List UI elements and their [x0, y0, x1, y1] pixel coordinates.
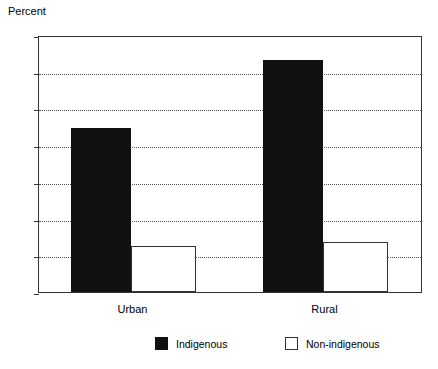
y-axis-title: Percent — [8, 5, 46, 18]
y-axis-tick — [34, 257, 39, 258]
bar-urban-indigenous — [71, 128, 131, 292]
legend-item-non-indigenous: Non-indigenous — [285, 337, 380, 350]
x-axis-label-rural: Rural — [311, 303, 337, 315]
gridline — [39, 110, 421, 111]
legend-label: Indigenous — [176, 338, 227, 350]
hollow-square-icon — [285, 337, 298, 350]
y-axis-tick — [34, 294, 39, 295]
chart-legend: Indigenous Non-indigenous — [0, 337, 438, 357]
legend-item-indigenous: Indigenous — [155, 337, 227, 350]
y-axis-tick — [34, 147, 39, 148]
y-axis-tick — [34, 221, 39, 222]
bar-rural-indigenous — [263, 60, 323, 292]
y-axis-tick — [34, 74, 39, 75]
y-axis-tick — [34, 184, 39, 185]
filled-square-icon — [155, 337, 168, 350]
bar-urban-non-indigenous — [131, 246, 196, 292]
y-axis-tick — [34, 110, 39, 111]
gridline — [39, 74, 421, 75]
plot-area — [38, 36, 422, 293]
bar-rural-non-indigenous — [323, 242, 388, 292]
x-axis-label-urban: Urban — [118, 303, 148, 315]
bar-chart: Percent 010203040506070 UrbanRural Indig… — [0, 0, 438, 369]
legend-label: Non-indigenous — [306, 338, 380, 350]
y-axis-tick — [34, 37, 39, 38]
